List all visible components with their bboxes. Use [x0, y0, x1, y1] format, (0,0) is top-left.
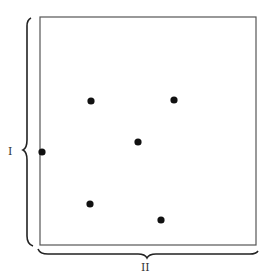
- point: [134, 138, 141, 145]
- square-region: [40, 17, 256, 245]
- vertical-brace: [23, 18, 33, 246]
- points: [38, 96, 177, 223]
- horizontal-brace: [38, 249, 258, 258]
- point: [87, 97, 94, 104]
- point: [170, 96, 177, 103]
- horizontal-label: II: [141, 261, 150, 274]
- point: [38, 148, 45, 155]
- point: [86, 200, 93, 207]
- vertical-label: I: [8, 145, 12, 158]
- diagram-canvas: I II: [0, 0, 271, 274]
- point: [157, 216, 164, 223]
